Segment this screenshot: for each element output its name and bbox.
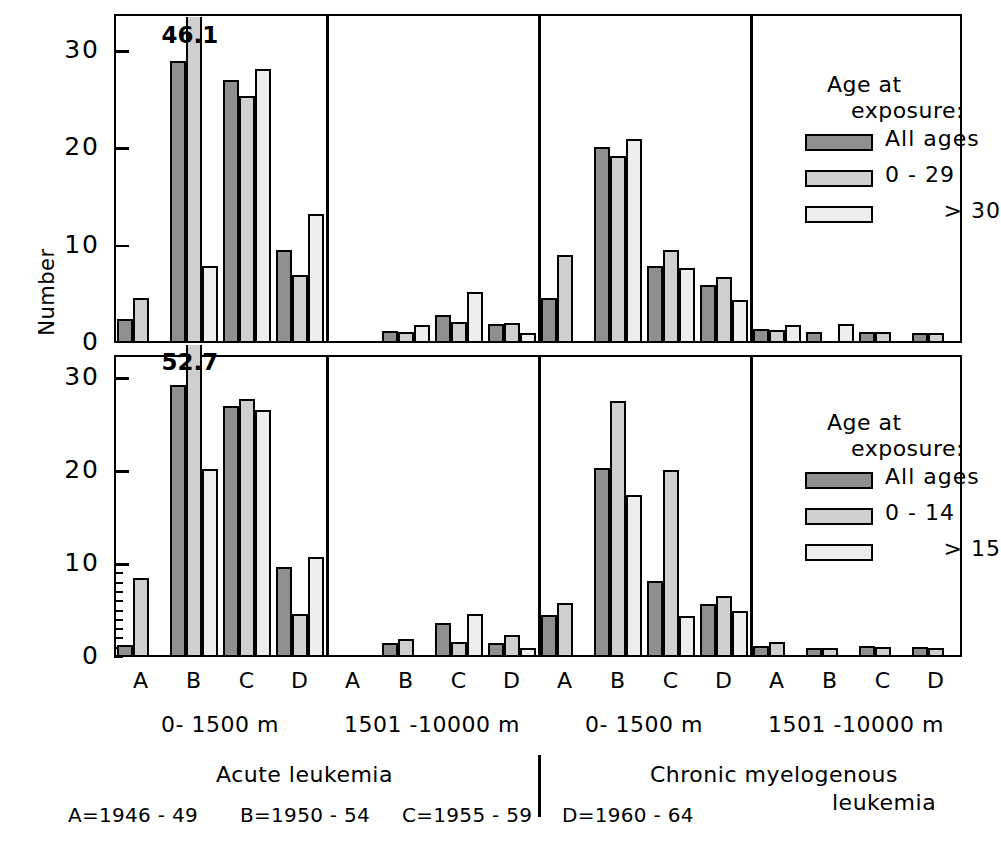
legend-top-swatch-all-ages[interactable] <box>805 134 873 151</box>
legend-top-label-high: > 30 <box>873 198 1001 223</box>
bar <box>859 646 875 657</box>
bar <box>520 648 536 657</box>
bar <box>610 156 626 343</box>
bar <box>435 315 451 343</box>
bar <box>594 147 610 343</box>
disease-label-acute: Acute leukemia <box>216 762 393 787</box>
legend-bottom-label-high: > 15 <box>873 536 1001 561</box>
bar <box>435 623 451 657</box>
bar <box>414 325 430 343</box>
legend-bottom-label-mid: 0 - 14 <box>885 500 955 525</box>
legend-top-swatch-high[interactable] <box>805 206 873 223</box>
disease-label-cml-l1: Chronic myelogenous <box>650 762 898 787</box>
footnote-b: B=1950 - 54 <box>240 803 370 827</box>
x-group-label-C: C <box>651 668 691 693</box>
x-group-label-A: A <box>121 668 161 693</box>
legend-bottom-swatch-mid[interactable] <box>805 508 873 525</box>
bar <box>769 330 785 343</box>
y-tick-label-20: 20 <box>36 134 100 159</box>
bar <box>398 332 414 343</box>
bar <box>541 615 557 657</box>
y-tick-label-30: 30 <box>36 37 100 62</box>
bar <box>594 468 610 657</box>
x-group-label-B: B <box>598 668 638 693</box>
bar <box>292 275 308 343</box>
legend-top-title-line2: exposure: <box>851 98 964 123</box>
bar <box>806 648 822 657</box>
x-group-label-D: D <box>492 668 532 693</box>
bar <box>186 17 202 343</box>
bar <box>488 643 504 657</box>
disease-separator <box>538 755 541 817</box>
bar <box>382 331 398 343</box>
bar <box>398 639 414 657</box>
y-tick-mark <box>114 470 129 473</box>
y-minor-tick <box>114 582 123 584</box>
bar <box>679 268 695 343</box>
bar <box>292 614 308 657</box>
panel-divider <box>750 14 753 343</box>
y-tick-label-30: 30 <box>36 364 100 389</box>
bar <box>504 323 520 343</box>
bar <box>276 250 292 343</box>
x-group-label-A: A <box>757 668 797 693</box>
x-group-label-B: B <box>810 668 850 693</box>
bar <box>716 277 732 343</box>
legend-top-label-all-ages: All ages <box>885 126 980 151</box>
y-tick-label-20: 20 <box>36 457 100 482</box>
footnote-c: C=1955 - 59 <box>402 803 532 827</box>
bar <box>467 614 483 657</box>
legend-top-title-line1: Age at <box>827 72 902 97</box>
bar <box>451 322 467 343</box>
bar <box>117 645 133 657</box>
bar <box>700 604 716 657</box>
y-minor-tick <box>114 610 123 612</box>
bar <box>647 266 663 343</box>
y-tick-label-0: 0 <box>36 643 100 668</box>
distance-label-near: 0- 1500 m <box>538 712 750 737</box>
legend-bottom-title-line2: exposure: <box>851 436 964 461</box>
bar <box>239 96 255 343</box>
x-group-label-B: B <box>174 668 214 693</box>
bar <box>769 642 785 657</box>
bar <box>928 648 944 657</box>
legend-top-label-mid: 0 - 29 <box>885 162 955 187</box>
bar <box>541 298 557 343</box>
bar <box>928 333 944 343</box>
y-minor-tick <box>114 572 123 574</box>
bar <box>223 80 239 343</box>
legend-bottom-label-all-ages: All ages <box>885 464 980 489</box>
bar <box>647 581 663 657</box>
x-group-label-D: D <box>916 668 956 693</box>
y-tick-label-0: 0 <box>36 329 100 354</box>
x-group-label-C: C <box>439 668 479 693</box>
bar <box>806 332 822 343</box>
bar <box>912 647 928 657</box>
bar <box>753 329 769 343</box>
panel-divider <box>326 14 329 343</box>
y-tick-mark <box>114 245 129 248</box>
x-group-label-A: A <box>333 668 373 693</box>
panel-divider <box>538 355 541 657</box>
x-group-label-C: C <box>863 668 903 693</box>
bar <box>117 319 133 343</box>
bar <box>557 255 573 343</box>
distance-label-far: 1501 -10000 m <box>750 712 962 737</box>
bar <box>255 69 271 343</box>
bar <box>488 324 504 343</box>
footnote-d: D=1960 - 64 <box>562 803 694 827</box>
bar <box>186 345 202 657</box>
y-tick-label-10: 10 <box>36 550 100 575</box>
y-minor-tick <box>114 600 123 602</box>
y-tick-mark <box>114 50 129 53</box>
legend-bottom-title-line1: Age at <box>827 410 902 435</box>
bar <box>859 332 875 343</box>
bar <box>520 333 536 343</box>
legend-bottom-swatch-high[interactable] <box>805 544 873 561</box>
x-group-label-D: D <box>280 668 320 693</box>
legend-bottom-swatch-all-ages[interactable] <box>805 472 873 489</box>
footnote-a: A=1946 - 49 <box>68 803 198 827</box>
legend-top-swatch-mid[interactable] <box>805 170 873 187</box>
bar <box>451 642 467 657</box>
